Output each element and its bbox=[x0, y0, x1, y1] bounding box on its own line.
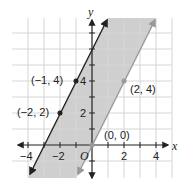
point-neg1-4 bbox=[74, 79, 79, 84]
coordinate-plane: y x O −4 −2 2 4 2 4 (−1, 4) (−2, 2) (2, … bbox=[0, 0, 189, 188]
tick-label-x-neg4: −4 bbox=[20, 150, 33, 162]
point-0-0 bbox=[90, 143, 95, 148]
point-neg2-2 bbox=[58, 111, 63, 116]
tick-label-x-neg2: −2 bbox=[52, 150, 65, 162]
tick-label-x-2: 2 bbox=[121, 150, 127, 162]
tick-label-y-2: 2 bbox=[80, 107, 86, 119]
origin-label: O bbox=[80, 149, 89, 163]
tick-label-x-4: 4 bbox=[153, 150, 159, 162]
point-2-4 bbox=[122, 79, 127, 84]
point-label-0-0: (0, 0) bbox=[104, 129, 130, 141]
tick-label-y-4: 4 bbox=[80, 75, 86, 87]
x-axis-label: x bbox=[171, 139, 178, 153]
point-label-2-4: (2, 4) bbox=[130, 83, 156, 95]
y-axis-label: y bbox=[87, 5, 94, 19]
point-label-neg2-2: (−2, 2) bbox=[17, 106, 49, 118]
point-label-neg1-4: (−1, 4) bbox=[31, 74, 63, 86]
